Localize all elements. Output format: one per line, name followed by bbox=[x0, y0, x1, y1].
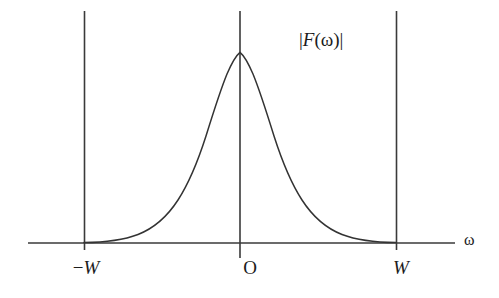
tick-label-minus-sign: − bbox=[73, 257, 84, 278]
spectrum-plot bbox=[0, 0, 499, 298]
curve-label-bar-close: | bbox=[340, 29, 344, 50]
tick-label-origin: O bbox=[243, 258, 257, 277]
curve-label-function: F bbox=[303, 29, 315, 50]
curve-label-omega: ω bbox=[321, 29, 334, 50]
tick-label-negative-w: −W bbox=[73, 258, 100, 277]
curve-label: |F(ω)| bbox=[299, 30, 343, 49]
omega-axis-label: ω bbox=[464, 232, 475, 248]
tick-label-positive-w: W bbox=[393, 258, 409, 277]
tick-label-w-left: W bbox=[83, 257, 99, 278]
figure-canvas: |F(ω)| ω −W O W bbox=[0, 0, 499, 298]
